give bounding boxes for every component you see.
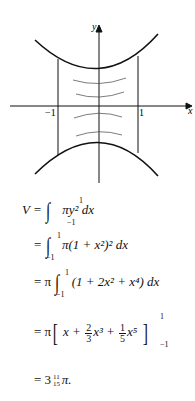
equation-line-2: = ∫ 1 −1 π(1 + x²)² dx xyxy=(34,233,128,259)
equation-line-5: = 31115π. xyxy=(34,372,72,388)
equation-line-3: = π ∫ 1 −1 (1 + 2x² + x⁴) dx xyxy=(34,270,159,296)
y-axis-label: y xyxy=(91,21,97,32)
frac5-den: 15 xyxy=(52,381,61,388)
inner-arc-3 xyxy=(74,113,122,118)
eq4-lhs: = π xyxy=(34,324,51,339)
eq4-lower: −1 xyxy=(160,340,169,349)
left-bracket-icon: [ xyxy=(53,318,58,348)
eq5-post: π. xyxy=(62,372,72,387)
frac2-den: 5 xyxy=(119,334,126,344)
fraction-two-thirds: 23 xyxy=(85,323,92,344)
fraction-eleven-fifteenths: 1115 xyxy=(52,374,61,388)
frac1-num: 2 xyxy=(85,323,92,334)
eq4-post: x⁵ xyxy=(127,324,137,339)
eq1-lower: −1 xyxy=(67,218,76,227)
tick-label-pos-1: 1 xyxy=(139,107,144,118)
equation-line-1: V = ∫ 1 −1 πy² dx xyxy=(22,198,94,224)
eq3-lower: −1 xyxy=(56,290,65,299)
eq3-body: (1 + 2x² + x⁴) dx xyxy=(72,274,160,289)
right-bracket-icon: ] xyxy=(142,318,147,348)
fraction-one-fifth: 15 xyxy=(119,323,126,344)
eq2-lhs: = xyxy=(34,237,41,252)
upper-curve xyxy=(35,34,158,69)
lower-curve xyxy=(35,142,158,176)
equation-line-4: = π[ x + 23x³ + 15x⁵ ] 1 −1 xyxy=(34,318,149,348)
eq2-body: π(1 + x²)² dx xyxy=(62,237,128,252)
eq1-upper: 1 xyxy=(79,196,83,205)
x-axis-label: x xyxy=(187,105,193,116)
frac2-num: 1 xyxy=(119,323,126,334)
eq5-lhs: = 3 xyxy=(34,372,51,387)
eq4-upper: 1 xyxy=(160,312,164,321)
eq4-mid: x³ + xyxy=(93,324,115,339)
y-axis-arrow xyxy=(96,25,102,32)
frac1-den: 3 xyxy=(85,334,92,344)
eq3-lhs: = π xyxy=(34,274,51,289)
eq2-lower: −1 xyxy=(46,253,55,262)
tick-label-neg-1: −1 xyxy=(45,107,56,118)
eq2-upper: 1 xyxy=(57,231,61,240)
eq3-upper: 1 xyxy=(65,268,69,277)
eq1-lhs: V = xyxy=(22,202,42,217)
eq4-pre: x + xyxy=(63,324,81,339)
integral-sign-icon: ∫ xyxy=(46,198,50,224)
solid-of-revolution-figure: x y −1 1 xyxy=(0,0,195,200)
inner-arc-2 xyxy=(76,92,124,97)
